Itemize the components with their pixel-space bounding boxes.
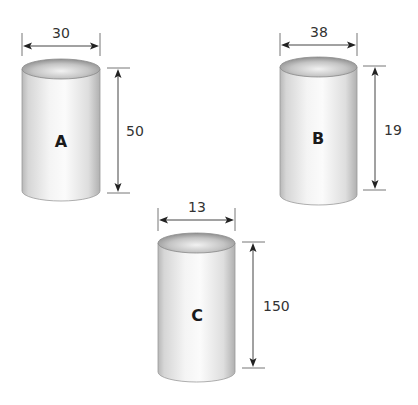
cylinder-a-diameter-dimension: 30: [22, 25, 100, 56]
cylinder-a-height-value: 50: [126, 123, 144, 139]
cylinder-a: A 30 50: [22, 25, 144, 201]
cylinders-diagram: A 30 50 B 38: [0, 0, 418, 405]
cylinder-b-diameter-dimension: 38: [280, 24, 357, 56]
cylinder-a-label: A: [55, 132, 68, 151]
cylinder-c-diameter-dimension: 13: [158, 199, 235, 231]
cylinder-b-top: [280, 57, 357, 77]
cylinder-c-label: C: [191, 306, 203, 325]
cylinder-c-height-dimension: 150: [242, 242, 290, 368]
cylinder-c: C 13 150: [158, 199, 290, 382]
cylinder-b-label: B: [312, 129, 324, 148]
cylinder-a-diameter-value: 30: [52, 25, 70, 41]
cylinder-c-diameter-value: 13: [188, 199, 206, 215]
cylinder-b-height-dimension: 19: [363, 66, 402, 190]
cylinder-b: B 38 19: [280, 24, 402, 205]
cylinder-b-height-value: 19: [384, 122, 402, 138]
cylinder-c-top: [158, 233, 235, 253]
cylinder-b-diameter-value: 38: [310, 24, 328, 40]
cylinder-c-height-value: 150: [263, 298, 290, 314]
cylinder-a-top: [22, 59, 100, 79]
cylinder-a-height-dimension: 50: [107, 68, 144, 193]
